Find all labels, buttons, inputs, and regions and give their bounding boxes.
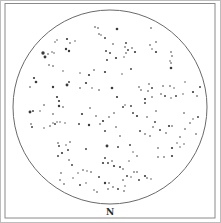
star <box>68 159 70 161</box>
star <box>149 44 151 46</box>
star <box>149 135 151 137</box>
star <box>57 155 59 157</box>
star <box>127 49 129 51</box>
star <box>144 175 146 177</box>
star <box>52 65 54 67</box>
star <box>59 179 61 181</box>
star <box>157 147 159 149</box>
inner-frame <box>5 4 215 219</box>
star <box>93 69 95 71</box>
star <box>179 146 180 147</box>
star <box>58 105 60 107</box>
star <box>98 176 100 178</box>
sky-boundary-circle <box>13 10 207 204</box>
star <box>94 26 96 28</box>
star <box>171 155 173 157</box>
star <box>66 84 69 87</box>
star <box>32 110 34 112</box>
star <box>121 73 122 74</box>
star <box>124 104 125 105</box>
star <box>61 152 63 154</box>
star <box>134 51 136 53</box>
star <box>175 95 177 97</box>
star <box>163 156 165 158</box>
star <box>60 172 62 174</box>
star <box>52 113 54 115</box>
star <box>133 171 135 173</box>
star <box>126 175 128 177</box>
star <box>132 112 134 114</box>
star <box>56 39 57 40</box>
star <box>41 51 44 54</box>
star <box>78 123 80 125</box>
star <box>170 97 171 98</box>
star <box>64 122 65 123</box>
star <box>184 128 186 130</box>
star <box>111 87 114 90</box>
star <box>47 53 49 55</box>
star <box>138 179 140 181</box>
star <box>160 93 162 95</box>
star <box>108 116 110 118</box>
star <box>182 93 183 94</box>
star <box>148 83 150 85</box>
star <box>63 183 65 185</box>
star <box>151 87 153 89</box>
star <box>122 106 124 108</box>
star <box>104 130 106 132</box>
star <box>192 91 194 93</box>
star <box>119 135 121 137</box>
star <box>53 52 54 53</box>
star <box>199 86 201 88</box>
star <box>66 38 68 40</box>
star <box>195 133 197 135</box>
star <box>151 48 152 49</box>
star <box>30 123 32 125</box>
star <box>69 141 71 143</box>
star <box>35 81 38 84</box>
star <box>159 129 161 131</box>
star <box>52 122 53 123</box>
star <box>62 70 63 71</box>
star <box>79 87 81 89</box>
star <box>49 125 51 127</box>
star <box>183 143 184 144</box>
star <box>100 34 101 35</box>
star <box>85 82 87 84</box>
star <box>93 189 94 190</box>
star <box>86 170 87 171</box>
star <box>124 185 125 186</box>
star <box>125 52 127 54</box>
star <box>102 162 104 164</box>
star <box>157 156 159 158</box>
star <box>189 122 191 124</box>
star <box>33 77 35 79</box>
star <box>150 178 151 179</box>
star <box>196 95 198 97</box>
star <box>67 149 69 151</box>
star <box>132 151 133 152</box>
star <box>59 121 60 122</box>
star <box>58 100 60 102</box>
star <box>154 121 156 123</box>
star <box>39 110 40 111</box>
star <box>65 144 66 145</box>
star <box>183 112 185 114</box>
star <box>136 155 138 157</box>
star <box>176 142 177 143</box>
star <box>123 190 125 192</box>
star <box>113 165 115 167</box>
star <box>85 148 87 150</box>
star <box>54 41 55 42</box>
star <box>122 168 124 170</box>
star <box>79 184 81 186</box>
star <box>155 110 157 112</box>
star <box>98 33 100 35</box>
star <box>131 47 133 49</box>
star <box>115 57 117 59</box>
star <box>155 41 157 43</box>
star <box>151 96 153 98</box>
star <box>77 172 78 173</box>
star <box>43 127 44 128</box>
star <box>116 28 119 31</box>
